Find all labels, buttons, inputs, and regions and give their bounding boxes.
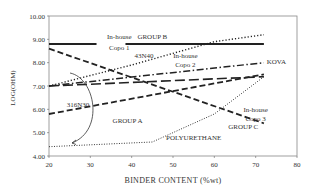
x-tick-label: 20 (46, 161, 54, 169)
x-tick-label: 80 (294, 161, 302, 169)
y-tick-label: 4.00 (33, 153, 46, 161)
x-tick-label: 40 (128, 161, 136, 169)
y-tick-label: 7.00 (33, 83, 46, 91)
annotation-label: POLYURETHANE (166, 134, 221, 142)
annotation-label: In-house (107, 33, 132, 41)
annotation-label: KOVA (267, 58, 286, 66)
chart: 4.005.006.007.008.009.0010.0020304050607… (0, 0, 313, 191)
annotation-label: Copo 3 (245, 115, 266, 123)
annotation-label: 316N30 (67, 101, 90, 109)
annotation-label: Copo 2 (175, 61, 196, 69)
annotation-label: GROUP A (113, 117, 143, 125)
x-tick-label: 70 (252, 161, 260, 169)
x-tick-label: 50 (170, 161, 178, 169)
annotation-label: In-house (173, 52, 198, 60)
annotation-label: In-house (243, 106, 268, 114)
y-tick-label: 9.00 (33, 36, 46, 44)
annotation-label: 43N40 (135, 52, 155, 60)
annotation-label: GROUP B (137, 33, 167, 41)
series-line-3 (49, 63, 264, 86)
x-tick-label: 30 (87, 161, 95, 169)
annotations: In-houseCopo 1GROUP B43N40In-houseCopo 2… (67, 33, 286, 141)
y-tick-label: 5.00 (33, 129, 46, 137)
x-axis-label: BINDER CONTENT (%wt) (125, 176, 222, 185)
annotation-label: GROUP C (228, 123, 258, 131)
y-tick-label: 8.00 (33, 59, 46, 67)
y-tick-label: 10.00 (29, 13, 45, 21)
y-tick-label: 6.00 (33, 106, 46, 114)
annotation-label: Copo 1 (109, 44, 130, 52)
series-line-1 (49, 49, 264, 124)
x-tick-label: 60 (211, 161, 219, 169)
y-axis-label: LOG(OHM) (9, 70, 17, 106)
